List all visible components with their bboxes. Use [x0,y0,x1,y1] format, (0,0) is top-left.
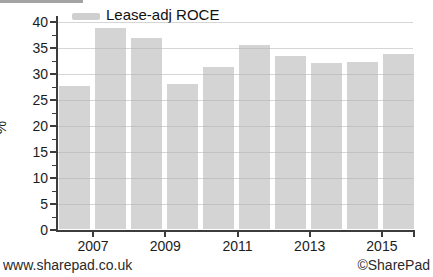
x-tick-2011 [237,232,239,237]
y-tick-label-5: 5 [16,196,48,212]
gridline-25 [58,100,413,101]
y-axis-title: % [0,121,9,134]
bar-2008 [131,38,162,229]
bar-2007 [95,28,126,230]
x-tick-label-2013: 2013 [288,238,332,254]
gridline-35 [58,48,413,49]
gridline-5 [58,204,413,205]
y-major-tick-30 [50,73,56,75]
y-tick-label-40: 40 [16,14,48,30]
gridline-15 [58,152,413,153]
y-major-tick-15 [50,151,56,153]
bar-2013 [311,63,342,229]
x-tick-label-2015: 2015 [360,238,404,254]
y-minor-tick [52,139,56,141]
legend-label: Lease-adj ROCE [106,6,219,23]
bar-2006 [59,86,90,230]
y-major-tick-35 [50,47,56,49]
footer-copyright: ©SharePad [357,257,430,273]
chart-panel: Lease-adj ROCE 0510152025303540200720092… [0,0,433,277]
gridline-10 [58,178,413,179]
y-minor-tick [52,35,56,37]
y-minor-tick [52,191,56,193]
legend-swatch [72,13,100,20]
y-minor-tick [52,113,56,115]
y-tick-label-20: 20 [16,118,48,134]
gridline-30 [58,74,413,75]
x-axis-end-tick [413,232,415,237]
x-tick-2015 [381,232,383,237]
x-tick-label-2009: 2009 [143,238,187,254]
y-tick-label-25: 25 [16,92,48,108]
y-major-tick-40 [50,21,56,23]
x-tick-label-2011: 2011 [216,238,260,254]
y-major-tick-25 [50,99,56,101]
x-tick-2007 [92,232,94,237]
bar-2010 [203,67,234,230]
bar-2009 [167,84,198,230]
y-tick-label-30: 30 [16,66,48,82]
gridline-40 [58,22,413,23]
gridline-20 [58,126,413,127]
footer-site-url: www.sharepad.co.uk [3,257,132,273]
y-tick-label-35: 35 [16,40,48,56]
y-tick-label-10: 10 [16,170,48,186]
x-tick-label-2007: 2007 [71,238,115,254]
y-major-tick-5 [50,203,56,205]
x-tick-2009 [164,232,166,237]
y-axis-line [56,16,58,232]
y-tick-label-15: 15 [16,144,48,160]
x-tick-2013 [309,232,311,237]
y-major-tick-10 [50,177,56,179]
y-minor-tick [52,87,56,89]
y-major-tick-20 [50,125,56,127]
y-minor-tick [52,61,56,63]
y-major-tick-0 [50,229,56,231]
y-minor-tick [52,217,56,219]
y-minor-tick [52,165,56,167]
x-axis-line [56,230,415,232]
cropped-edge-artifact [0,0,83,3]
y-tick-label-0: 0 [16,222,48,238]
